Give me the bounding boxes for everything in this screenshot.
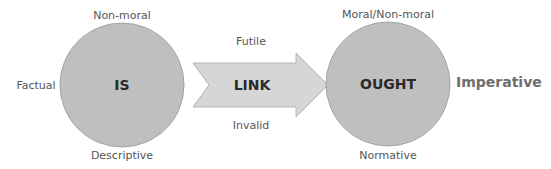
is-top-label: Non-moral — [93, 9, 151, 22]
ought-right-label: Imperative — [456, 74, 542, 90]
is-node-label: IS — [114, 77, 129, 93]
is-bottom-label: Descriptive — [91, 149, 153, 162]
link-top-label: Futile — [236, 35, 266, 48]
ought-node-label: OUGHT — [360, 76, 416, 92]
is-left-label: Factual — [16, 79, 55, 92]
ought-bottom-label: Normative — [359, 149, 416, 162]
link-bottom-label: Invalid — [233, 119, 270, 132]
ought-top-label: Moral/Non-moral — [342, 8, 434, 21]
link-label: LINK — [234, 77, 271, 93]
